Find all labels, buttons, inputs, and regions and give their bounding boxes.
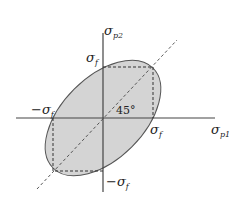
left-neg-sigma-f-label: −σf	[31, 102, 56, 119]
failure-envelope-diagram: σp2 σp1 σf −σf σf −σf 45°	[0, 0, 240, 197]
right-sigma-f-label: σf	[150, 122, 164, 139]
horizontal-axis-label: σp1	[211, 122, 230, 139]
top-sigma-f-label: σf	[86, 50, 100, 67]
angle-label: 45°	[116, 104, 136, 117]
bottom-neg-sigma-f-label: −σf	[106, 174, 131, 191]
vertical-axis-label: σp2	[104, 23, 123, 40]
